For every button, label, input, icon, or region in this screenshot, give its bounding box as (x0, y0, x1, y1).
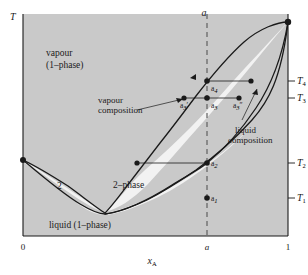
x-axis-label-sub: A (152, 260, 157, 267)
data-point-a4-liquid-side (248, 78, 253, 83)
data-point-corner-right (285, 19, 291, 25)
x-tick-1: 1 (286, 242, 291, 252)
x-tick-a: a (205, 242, 210, 252)
phase-diagram-figure: T a 0 a 1 xA T4 T3 T2 T1 vapour (1–phase… (0, 0, 308, 275)
region-label-two-phase-small: 2 (57, 181, 62, 191)
annotation-vapour-composition-line1: vapour (98, 95, 123, 105)
region-label-vapour-line1: vapour (46, 48, 73, 58)
data-point-a2 (204, 160, 210, 166)
y-tick-t2-sub: 2 (303, 162, 306, 169)
data-point-a3 (204, 95, 210, 101)
top-composition-marker: a (202, 7, 207, 18)
a3pp-prime-mark: ″ (240, 101, 243, 110)
region-label-vapour-line2: (1–phase) (46, 60, 83, 71)
x-tick-0: 0 (21, 242, 26, 252)
annotation-vapour-composition-line2: composition (98, 105, 143, 115)
y-tick-t3-sub: 3 (303, 97, 306, 104)
data-point-a3-prime (181, 95, 186, 100)
data-point-a3-double-prime (236, 95, 241, 100)
data-point-a1 (204, 195, 210, 201)
region-label-liquid: liquid (1–phase) (49, 220, 111, 231)
data-point-a2-vapour-side (134, 160, 139, 165)
y-tick-t1-sub: 1 (303, 197, 306, 204)
data-point-corner-left (20, 157, 26, 163)
region-label-two-phase: 2–phase (113, 180, 144, 190)
a1-sub: 1 (214, 197, 217, 204)
phase-diagram-svg: T a 0 a 1 xA T4 T3 T2 T1 vapour (1–phase… (0, 0, 308, 275)
data-point-a4 (204, 78, 210, 84)
annotation-liquid-composition-line1: liquid (235, 125, 257, 135)
annotation-liquid-composition-line2: composition (228, 135, 273, 145)
